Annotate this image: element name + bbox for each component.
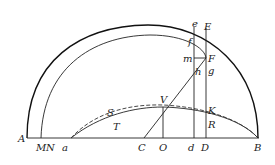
- label-B: B: [253, 142, 261, 153]
- label-F: F: [207, 53, 216, 64]
- label-V: V: [160, 94, 169, 105]
- label-S: S: [107, 107, 114, 118]
- label-R: R: [207, 119, 216, 130]
- label-C: C: [138, 142, 146, 153]
- label-e: e: [192, 18, 198, 29]
- label-d: d: [188, 142, 194, 153]
- label-T: T: [113, 121, 121, 132]
- label-N: N: [45, 142, 56, 153]
- label-a: a: [62, 142, 68, 153]
- label-E: E: [203, 21, 212, 32]
- outer-arc: [27, 25, 258, 138]
- label-m: m: [183, 53, 192, 64]
- label-K: K: [207, 105, 216, 116]
- label-O: O: [159, 142, 167, 153]
- label-D: D: [200, 142, 209, 153]
- label-g: g: [208, 65, 214, 76]
- label-f: f: [187, 36, 194, 47]
- geometry-diagram: A M N a C O d D B V S T K R e E f m F g …: [0, 0, 275, 165]
- label-h: h: [195, 66, 201, 77]
- dashed-curve-aSVB: [71, 105, 258, 138]
- label-A: A: [17, 133, 25, 144]
